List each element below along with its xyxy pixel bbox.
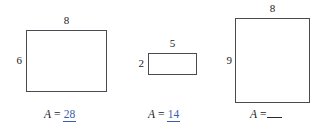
rectangle-shape-3: [235, 18, 310, 103]
area-answer-blank-3[interactable]: [267, 117, 282, 118]
area-variable-3: A: [250, 108, 257, 120]
figure-rectangle-3: 8 9 A =: [0, 0, 326, 136]
area-worksheet: 8 6 A = 28 5 2 A = 14 8 9 A =: [0, 0, 326, 136]
rectangle-3-area-answer: A =: [250, 108, 282, 121]
area-equals-3: =: [260, 108, 267, 120]
rectangle-3-width-label: 8: [235, 3, 310, 14]
rectangle-3-height-label: 9: [218, 55, 232, 66]
